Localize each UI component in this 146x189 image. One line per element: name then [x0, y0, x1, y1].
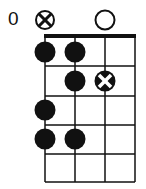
dot-s1-f3	[35, 100, 56, 121]
dot-s1-f1	[35, 42, 56, 63]
dot-s1-f4	[35, 129, 56, 150]
open-string-icon	[96, 11, 115, 30]
dot-s2-f4	[65, 129, 86, 150]
nut	[44, 34, 136, 38]
dot-s2-f1	[65, 42, 86, 63]
frets	[45, 66, 135, 182]
chord-diagram	[0, 0, 146, 189]
strings	[45, 36, 135, 182]
dot-s2-f2	[65, 71, 86, 92]
muted-string-icon	[36, 11, 54, 29]
x-dot-icon	[95, 71, 116, 92]
